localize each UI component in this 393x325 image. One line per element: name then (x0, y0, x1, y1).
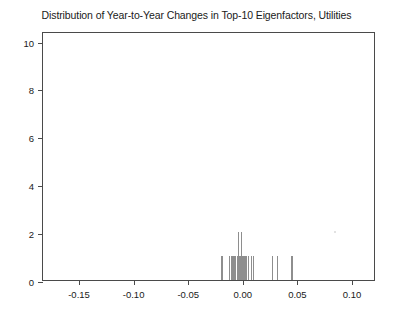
y-axis-tick-label: 10 (23, 37, 34, 48)
y-axis-tick (38, 90, 43, 91)
x-axis-tick (352, 280, 353, 285)
histogram-bar (277, 256, 278, 280)
x-axis-tick-label: -0.10 (123, 289, 145, 300)
histogram-bar (221, 256, 222, 280)
y-axis-tick (38, 282, 43, 283)
histogram-bar (251, 256, 252, 280)
y-axis-tick-label: 0 (29, 277, 34, 288)
x-axis-tick-label: -0.05 (177, 289, 199, 300)
x-axis-tick (188, 280, 189, 285)
x-axis-tick-label: 0.10 (343, 289, 362, 300)
x-axis-tick (243, 280, 244, 285)
y-axis-tick-label: 2 (29, 229, 34, 240)
plot-area (43, 33, 374, 280)
y-axis-tick (38, 138, 43, 139)
x-axis-tick (134, 280, 135, 285)
y-axis-tick-label: 4 (29, 181, 34, 192)
histogram-bar (272, 256, 273, 280)
chart-title: Distribution of Year-to-Year Changes in … (0, 9, 393, 21)
y-axis-tick-label: 8 (29, 85, 34, 96)
y-axis-tick (38, 43, 43, 44)
histogram-bar (253, 256, 254, 280)
x-axis-tick (297, 280, 298, 285)
histogram-bar (229, 256, 230, 280)
x-axis-tick (79, 280, 80, 285)
y-axis-tick-label: 6 (29, 133, 34, 144)
histogram-bar (245, 256, 246, 280)
x-axis-tick-label: -0.15 (68, 289, 90, 300)
x-axis-tick-label: 0.05 (288, 289, 307, 300)
chart-root: Distribution of Year-to-Year Changes in … (0, 0, 393, 325)
y-axis-tick (38, 186, 43, 187)
y-axis-tick (38, 234, 43, 235)
histogram-bar (291, 256, 292, 280)
faint-speck-icon (334, 231, 336, 233)
histogram-bar (248, 256, 249, 280)
plot-frame: 0246810 -0.15-0.10-0.050.000.050.10 (42, 32, 375, 281)
x-axis-tick-label: 0.00 (234, 289, 253, 300)
histogram-bar (231, 256, 232, 280)
